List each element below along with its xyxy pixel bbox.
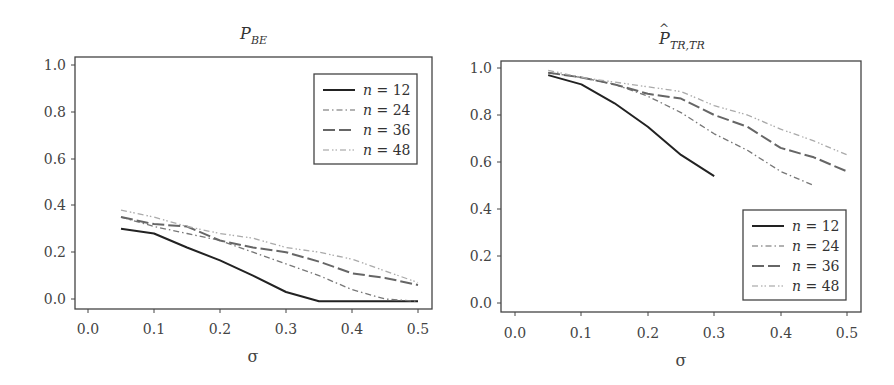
x-tick-label: 0.4: [341, 321, 363, 337]
x-tick-label: 0.0: [77, 321, 99, 337]
series-line-n36: [121, 217, 418, 285]
chart-title-sub: TR,TR: [670, 39, 705, 52]
legend-label-n24: n = 24: [363, 102, 411, 118]
y-axis: 1.0 0.8 0.6 0.4 0.2 0.0: [44, 57, 75, 307]
legend-label-n48: n = 48: [363, 142, 410, 158]
x-tick-label: 0.0: [504, 325, 526, 341]
y-tick-label: 0.4: [44, 197, 66, 213]
x-tick-label: 0.3: [275, 321, 297, 337]
y-tick-label: 0.0: [44, 291, 66, 307]
x-tick-label: 0.2: [209, 321, 231, 337]
x-axis-label: σ: [248, 347, 259, 366]
series-line-n48: [548, 70, 847, 155]
figure: P BE 1.0 0.8 0.6 0.4 0.2 0.0 0.0 0.1: [0, 0, 894, 385]
legend-label-n12: n = 12: [363, 82, 410, 98]
legend-label-n24: n = 24: [792, 238, 840, 254]
y-tick-label: 1.0: [44, 57, 66, 73]
x-axis: 0.0 0.1 0.2 0.3 0.4 0.5 σ: [77, 309, 429, 366]
series-line-n48: [121, 210, 418, 283]
x-tick-label: 0.1: [570, 325, 592, 341]
x-tick-label: 0.2: [637, 325, 659, 341]
chart-title-main: P: [239, 24, 251, 43]
chart-title-sub: BE: [250, 34, 267, 47]
legend: n = 12 n = 24 n = 36 n = 48: [743, 210, 846, 300]
y-tick-label: 0.8: [44, 104, 66, 120]
x-tick-label: 0.1: [143, 321, 165, 337]
hat-accent: ^: [659, 22, 669, 36]
y-axis: 1.0 0.8 0.6 0.4 0.2 0.0: [470, 60, 501, 311]
x-tick-label: 0.3: [703, 325, 725, 341]
y-tick-label: 0.6: [44, 151, 66, 167]
y-tick-label: 0.4: [470, 201, 492, 217]
y-tick-label: 0.0: [470, 295, 492, 311]
data-lines: [548, 70, 847, 185]
data-lines: [121, 210, 418, 301]
series-line-n36: [548, 73, 847, 172]
series-line-n24: [548, 73, 814, 186]
x-tick-label: 0.5: [836, 325, 858, 341]
y-tick-label: 0.6: [470, 154, 492, 170]
y-tick-label: 1.0: [470, 60, 492, 76]
series-line-n24: [121, 217, 418, 301]
y-tick-label: 0.8: [470, 107, 492, 123]
x-axis: 0.0 0.1 0.2 0.3 0.4 0.5 σ: [504, 312, 858, 370]
chart-left: P BE 1.0 0.8 0.6 0.4 0.2 0.0 0.0 0.1: [44, 24, 432, 366]
legend-label-n36: n = 36: [363, 122, 411, 138]
y-tick-label: 0.2: [470, 248, 492, 264]
x-axis-label: σ: [676, 351, 687, 370]
legend-label-n12: n = 12: [792, 218, 839, 234]
legend-label-n48: n = 48: [792, 278, 839, 294]
legend: n = 12 n = 24 n = 36 n = 48: [314, 74, 417, 164]
x-tick-label: 0.4: [770, 325, 792, 341]
legend-label-n36: n = 36: [792, 258, 840, 274]
x-tick-label: 0.5: [407, 321, 429, 337]
chart-right: P ^ TR,TR 1.0 0.8 0.6 0.4 0.2 0.0 0.0: [470, 22, 861, 370]
y-tick-label: 0.2: [44, 244, 66, 260]
series-line-n12: [121, 229, 418, 301]
